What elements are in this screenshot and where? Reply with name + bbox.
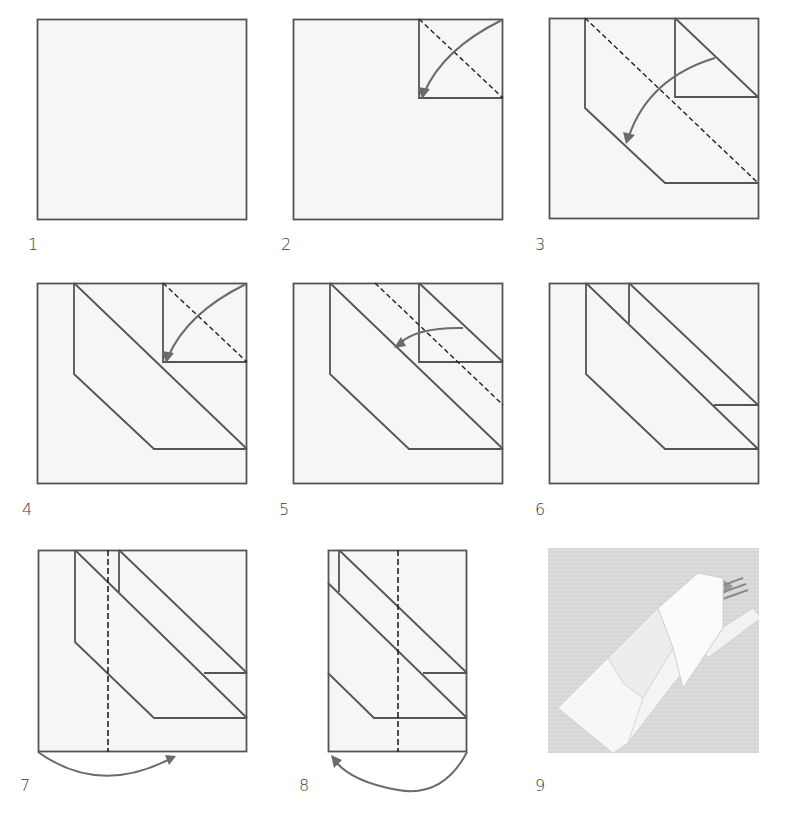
step-6-diagram — [549, 283, 759, 484]
step-3-diagram — [549, 18, 759, 219]
step-number-label: 4 — [22, 502, 32, 518]
fold-right-under-illustration — [328, 550, 467, 795]
fold-left-under-illustration — [38, 550, 248, 790]
step-1-diagram — [37, 19, 247, 220]
step-number-label: 5 — [279, 502, 289, 518]
square-napkin-illustration — [37, 19, 247, 220]
step-7-diagram — [38, 550, 248, 752]
step-4-diagram — [37, 283, 247, 484]
diagonal-fold-illustration — [549, 18, 759, 219]
fold-under-arrow-icon — [38, 752, 168, 776]
corner-fold-illustration — [293, 19, 503, 220]
step-number-label: 8 — [299, 778, 309, 794]
footer-caption — [60, 812, 420, 818]
step-number-label: 1 — [28, 237, 38, 253]
strip-fold-illustration — [293, 283, 503, 484]
step-8-diagram — [328, 550, 467, 752]
folded-strips-illustration — [549, 283, 759, 484]
step-number-label: 3 — [535, 237, 545, 253]
napkin-with-cutlery-image — [548, 548, 759, 753]
step-number-label: 6 — [535, 502, 545, 518]
step-number-label: 9 — [535, 778, 545, 794]
step-number-label: 7 — [20, 778, 30, 794]
step-5-diagram — [293, 283, 503, 484]
step-number-label: 2 — [281, 237, 291, 253]
second-corner-fold-illustration — [37, 283, 247, 484]
finished-napkin-photo — [548, 548, 759, 753]
step-2-diagram — [293, 19, 503, 220]
fold-under-arrow-icon — [336, 752, 467, 791]
